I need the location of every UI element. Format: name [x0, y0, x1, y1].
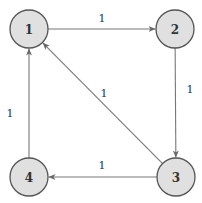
edges	[29, 29, 176, 177]
node-3: 3	[157, 158, 195, 196]
edge-weight-label: 1	[7, 107, 14, 120]
node-label: 1	[25, 23, 33, 37]
node-4: 4	[10, 158, 48, 196]
node-1: 1	[10, 10, 48, 48]
node-label: 3	[172, 171, 180, 185]
node-label: 2	[171, 23, 179, 37]
edge-3-to-1	[43, 43, 163, 164]
edge-2-to-3	[175, 48, 176, 158]
directed-graph: 1234 11111	[0, 0, 202, 203]
node-label: 4	[25, 171, 33, 185]
edge-weight-label: 1	[99, 159, 106, 172]
edge-weight-label: 1	[99, 12, 106, 25]
node-2: 2	[156, 10, 194, 48]
edge-weight-label: 1	[101, 87, 108, 100]
edge-weight-label: 1	[187, 83, 194, 96]
